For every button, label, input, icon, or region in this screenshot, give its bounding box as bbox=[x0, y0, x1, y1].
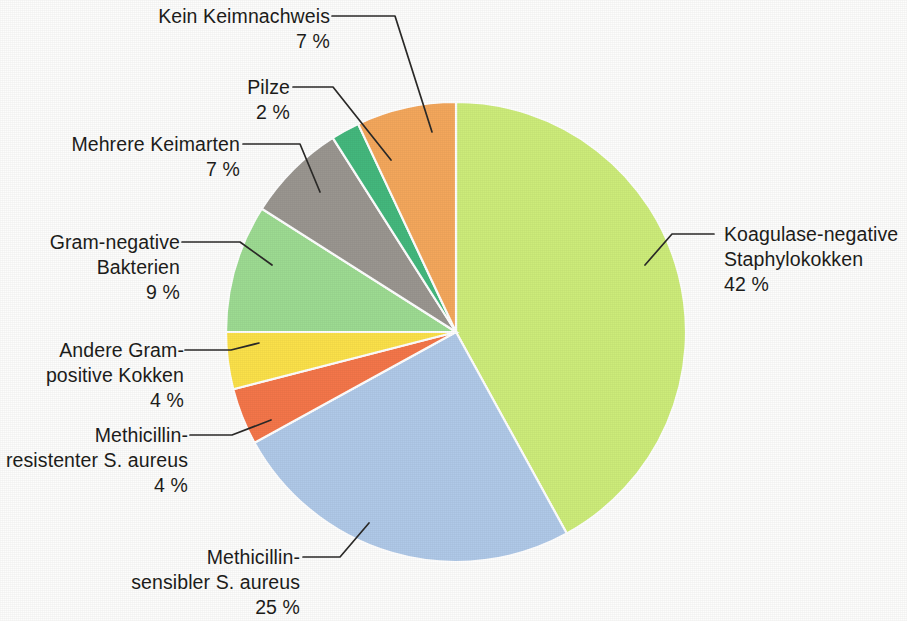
slice-label-text: Pilze bbox=[247, 76, 290, 98]
slice-label-text-2: resistenter S. aureus bbox=[0, 448, 188, 473]
pie-slice-group bbox=[226, 102, 686, 562]
slice-label-text: Mehrere Keimarten bbox=[71, 133, 240, 155]
slice-label-percent: 25 % bbox=[122, 595, 300, 620]
slice-label-text-2: positive Kokken bbox=[14, 363, 184, 388]
slice-label-percent: 4 % bbox=[0, 473, 188, 498]
slice-label-percent: 4 % bbox=[14, 388, 184, 413]
slice-label-text-2: sensibler S. aureus bbox=[122, 570, 300, 595]
slice-label-text: Methicillin- bbox=[207, 546, 300, 568]
slice-label-text-2: Bakterien bbox=[22, 255, 180, 280]
slice-label-andere-gram-positive: Andere Gram- positive Kokken 4 % bbox=[14, 338, 184, 413]
slice-label-mehrere-keimarten: Mehrere Keimarten 7 % bbox=[32, 132, 240, 182]
pie-chart-figure: Kein Keimnachweis 7 % Pilze 2 % Mehrere … bbox=[0, 0, 907, 621]
slice-label-text: Gram-negative bbox=[50, 231, 180, 253]
slice-label-kein-keimnachweis: Kein Keimnachweis 7 % bbox=[110, 4, 330, 54]
slice-label-kns: Koagulase-negative Staphylokokken 42 % bbox=[724, 222, 907, 297]
slice-label-text: Koagulase-negative bbox=[724, 223, 898, 245]
slice-label-mssa: Methicillin- sensibler S. aureus 25 % bbox=[122, 545, 300, 620]
slice-label-mrsa: Methicillin- resistenter S. aureus 4 % bbox=[0, 423, 188, 498]
slice-label-gram-negative: Gram-negative Bakterien 9 % bbox=[22, 230, 180, 305]
slice-label-text: Kein Keimnachweis bbox=[158, 5, 330, 27]
slice-label-percent: 7 % bbox=[110, 29, 330, 54]
slice-label-percent: 7 % bbox=[32, 157, 240, 182]
slice-label-percent: 2 % bbox=[110, 100, 290, 125]
slice-label-text-2: Staphylokokken bbox=[724, 247, 907, 272]
slice-label-pilze: Pilze 2 % bbox=[110, 75, 290, 125]
slice-label-text: Andere Gram- bbox=[59, 339, 184, 361]
slice-label-percent: 42 % bbox=[724, 272, 907, 297]
slice-label-percent: 9 % bbox=[22, 280, 180, 305]
slice-label-text: Methicillin- bbox=[95, 424, 188, 446]
